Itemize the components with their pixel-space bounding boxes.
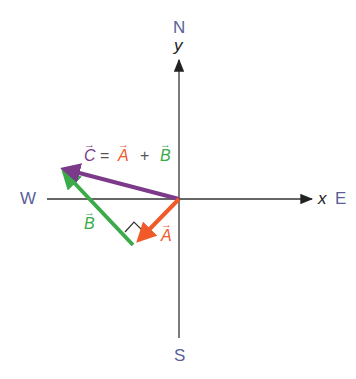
- vector-arrow-icon: →: [118, 138, 129, 150]
- equation-c-label: →C: [84, 147, 96, 165]
- vector-a: [139, 199, 179, 240]
- vector-arrow-icon: →: [84, 138, 95, 150]
- y-axis-label: y: [174, 36, 183, 56]
- equation-plus: +: [140, 147, 149, 165]
- compass-west-label: W: [20, 189, 36, 209]
- vector-diagram: [0, 0, 356, 379]
- equation-equals: =: [100, 147, 109, 165]
- equation-a-label: →A: [118, 147, 129, 165]
- vector-c: [64, 169, 179, 199]
- right-angle-marker: [125, 222, 143, 232]
- vector-a-label: →A: [161, 227, 172, 245]
- compass-east-label: E: [335, 189, 346, 209]
- compass-south-label: S: [174, 346, 185, 366]
- vector-arrow-icon: →: [160, 138, 171, 150]
- vector-arrow-icon: →: [84, 206, 95, 218]
- vector-b-label: →B: [84, 215, 95, 233]
- compass-north-label: N: [173, 18, 185, 38]
- equation-b-label: →B: [160, 147, 171, 165]
- vector-arrow-icon: →: [161, 218, 172, 230]
- x-axis-label: x: [318, 189, 327, 209]
